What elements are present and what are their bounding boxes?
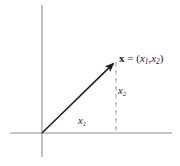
vector-in-plane-diagram: x = (x1,x2) x2 x1 <box>0 0 180 166</box>
axes-group <box>10 5 172 157</box>
x1-axis-label: x1 <box>78 116 86 127</box>
x2-axis-label: x2 <box>118 86 126 97</box>
close-paren: ) <box>160 52 164 64</box>
x1-sub: 1 <box>83 120 86 127</box>
diagram-canvas <box>0 0 180 166</box>
equals-open-paren: = ( <box>125 52 140 64</box>
vector-point-label: x = (x1,x2) <box>119 53 163 64</box>
x2-sub: 2 <box>123 90 126 97</box>
